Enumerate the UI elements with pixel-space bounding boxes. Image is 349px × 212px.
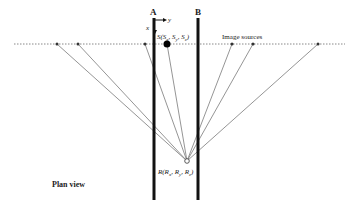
wall-a-label: A [150, 7, 157, 17]
image-source-point [252, 43, 255, 46]
ray [187, 44, 232, 161]
receiver-label: R(Rx, Ry, Rz) [157, 168, 194, 177]
ray [78, 44, 187, 161]
image-source-point [56, 43, 59, 46]
image-source-point [317, 43, 320, 46]
image-source-point [231, 43, 234, 46]
receiver-point [185, 159, 190, 164]
ray [145, 44, 187, 161]
ray [167, 44, 187, 161]
axis-y-label: y [167, 16, 172, 24]
image-source-point [144, 43, 147, 46]
image-source-point [77, 43, 80, 46]
source-point [164, 41, 171, 48]
ray [187, 44, 318, 161]
plan-view-title: Plan view [52, 180, 85, 189]
plan-view-diagram: A B y x S(Sx, Sy, Sz) Image sources R(Rx… [0, 0, 349, 212]
axis-x-label: x [145, 24, 150, 32]
wall-b-label: B [195, 7, 201, 17]
source-label: S(Sx, Sy, Sz) [157, 33, 190, 42]
ray [57, 44, 187, 161]
image-sources-label: Image sources [222, 33, 263, 41]
rays [57, 44, 318, 161]
axis-y [155, 18, 167, 22]
arrow-right-icon [163, 18, 167, 22]
